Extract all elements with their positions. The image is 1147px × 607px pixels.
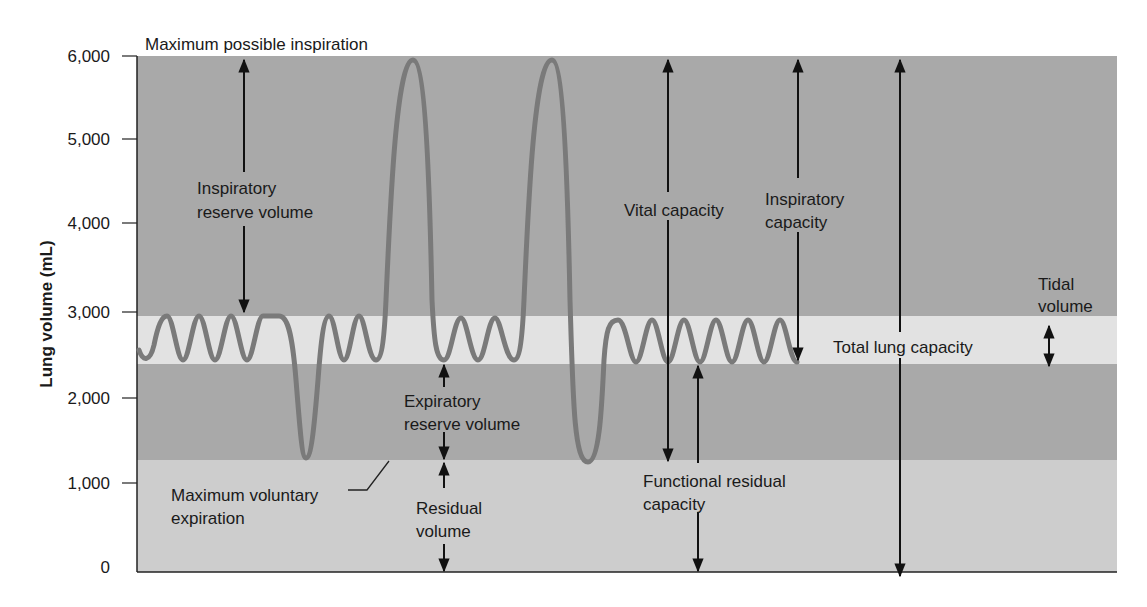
y-tick-0: 0 (101, 558, 110, 577)
label-tlc: Total lung capacity (833, 338, 973, 357)
label-tv-1: Tidal (1038, 275, 1074, 294)
y-tick-6000: 6,000 (67, 47, 110, 66)
label-mve-2: expiration (171, 509, 245, 528)
label-irv-2: reserve volume (197, 203, 313, 222)
label-frc-1: Functional residual (643, 472, 786, 491)
label-ic-2: capacity (765, 213, 828, 232)
label-rv-2: volume (416, 522, 471, 541)
y-tick-4000: 4,000 (67, 214, 110, 233)
label-rv-1: Residual (416, 499, 482, 518)
y-axis-label: Lung volume (mL) (37, 240, 56, 387)
lung-volume-diagram: 6,000 5,000 4,000 3,000 2,000 1,000 0 Lu… (0, 0, 1147, 607)
label-irv-1: Inspiratory (197, 179, 277, 198)
label-mve-1: Maximum voluntary (171, 486, 319, 505)
band-residual (137, 460, 1117, 572)
label-tv-2: volume (1038, 297, 1093, 316)
y-tick-5000: 5,000 (67, 130, 110, 149)
label-frc-2: capacity (643, 495, 706, 514)
y-tick-3000: 3,000 (67, 303, 110, 322)
y-tick-1000: 1,000 (67, 474, 110, 493)
label-erv-2: reserve volume (404, 415, 520, 434)
label-ic-1: Inspiratory (765, 190, 845, 209)
label-erv-1: Expiratory (404, 392, 481, 411)
y-tick-2000: 2,000 (67, 389, 110, 408)
label-max-inspiration: Maximum possible inspiration (145, 35, 368, 54)
band-inspiratory-reserve (137, 56, 1117, 316)
band-expiratory-reserve (137, 364, 1117, 460)
label-vital-capacity: Vital capacity (624, 201, 724, 220)
